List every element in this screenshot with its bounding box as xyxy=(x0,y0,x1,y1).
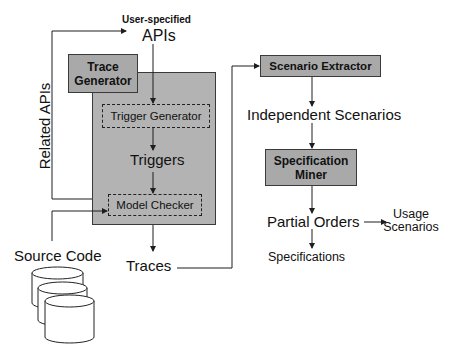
connector-layer xyxy=(0,0,459,353)
api-spec-mining-diagram: Trace Generator Trigger Generator Trigge… xyxy=(0,0,459,353)
database-cylinders-icon xyxy=(32,267,94,343)
cylinder-3 xyxy=(45,295,94,343)
traces-to-scenario-extractor-arrow xyxy=(177,66,259,268)
related-apis-arrow xyxy=(52,31,126,199)
source-code-to-model-checker-arrow xyxy=(52,211,107,241)
